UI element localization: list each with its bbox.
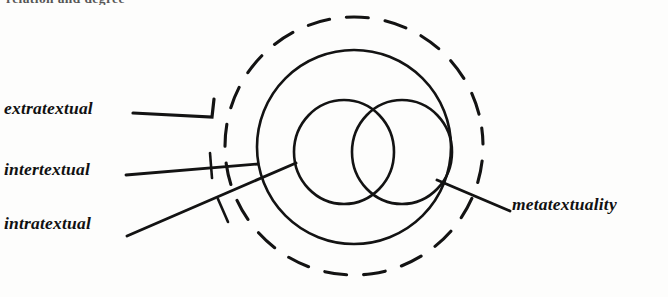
inner-circle-left xyxy=(294,100,394,204)
inner-circle-right xyxy=(352,100,452,204)
leader-line-metatextuality xyxy=(437,180,510,211)
leader-tick-intratextual xyxy=(218,199,228,222)
diagram-canvas xyxy=(0,0,668,297)
leader-line-extratextual xyxy=(133,99,214,117)
label-intratextual: intratextual xyxy=(4,213,91,234)
label-metatextuality: metatextuality xyxy=(512,194,617,215)
solid-main-circle xyxy=(257,50,451,244)
leader-tick-intertextual xyxy=(210,153,212,178)
label-extratextual: extratextual xyxy=(4,98,93,119)
label-intertextual: intertextual xyxy=(4,159,90,180)
dashed-outer-circle xyxy=(208,0,499,291)
leader-line-intertextual xyxy=(126,164,258,175)
figure-page: relation and degree extratextual interte… xyxy=(0,0,668,297)
